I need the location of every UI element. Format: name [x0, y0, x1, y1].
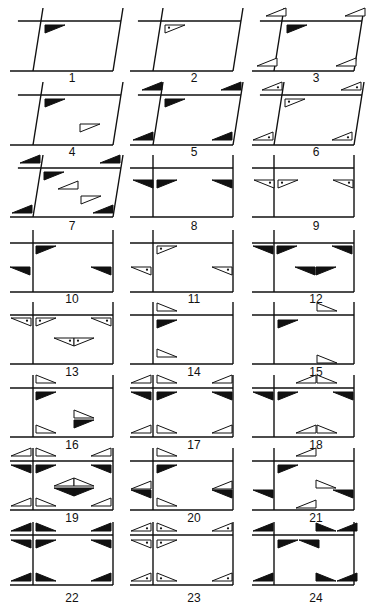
outline-triangle-icon — [131, 481, 151, 489]
filled-triangle-icon — [337, 573, 357, 581]
filled-triangle-icon — [10, 267, 30, 275]
dot-icon — [288, 101, 290, 103]
filled-triangle-icon — [45, 25, 65, 33]
panel-11: 11 — [130, 230, 233, 306]
left-vertical-line — [33, 82, 43, 145]
dotted-triangle-icon — [285, 99, 305, 107]
dotted-triangle-icon — [212, 523, 232, 531]
right-vertical-line — [354, 82, 364, 145]
filled-triangle-icon — [11, 573, 31, 581]
dot-icon — [347, 136, 349, 138]
filled-triangle-icon — [333, 392, 353, 400]
panel-label: 17 — [187, 438, 201, 452]
outline-triangle-icon — [80, 124, 100, 132]
left-vertical-line — [33, 8, 43, 71]
panel-label: 20 — [187, 511, 201, 525]
filled-triangle-icon — [44, 172, 64, 180]
filled-triangle-icon — [36, 540, 56, 548]
filled-triangle-icon — [277, 246, 297, 254]
filled-triangle-icon — [91, 540, 111, 548]
dot-icon — [146, 269, 148, 271]
filled-triangle-icon — [74, 420, 94, 428]
panel-3: 3 — [252, 8, 365, 85]
filled-triangle-icon — [278, 540, 298, 548]
panel-label: 5 — [191, 145, 198, 159]
dot-icon — [227, 269, 229, 271]
outline-triangle-icon — [296, 375, 316, 383]
outline-triangle-icon — [11, 498, 31, 506]
filled-triangle-icon — [36, 246, 56, 254]
filled-triangle-icon — [20, 155, 40, 163]
dotted-triangle-icon — [131, 267, 151, 275]
outline-triangle-icon — [157, 498, 177, 506]
dotted-triangle-icon — [157, 573, 177, 581]
outline-triangle-icon — [36, 425, 56, 433]
filled-triangle-icon — [212, 132, 232, 140]
filled-triangle-icon — [299, 540, 319, 548]
filled-triangle-icon — [316, 573, 336, 581]
outline-triangle-icon — [157, 303, 177, 311]
outline-triangle-icon — [36, 498, 56, 506]
filled-triangle-icon — [36, 573, 56, 581]
outline-triangle-icon — [317, 375, 337, 383]
filled-triangle-icon — [253, 246, 273, 254]
panel-21: 21 — [252, 448, 354, 525]
dotted-triangle-icon — [262, 82, 282, 90]
panel-14: 14 — [130, 302, 233, 379]
filled-triangle-icon — [165, 99, 185, 107]
filled-triangle-icon — [36, 523, 56, 531]
panel-label: 14 — [187, 365, 201, 379]
panel-12: 12 — [252, 230, 354, 306]
dotted-triangle-icon — [212, 267, 232, 275]
dotted-triangle-icon — [165, 25, 185, 33]
filled-triangle-icon — [316, 267, 336, 275]
filled-triangle-icon — [142, 82, 162, 90]
filled-triangle-icon — [278, 392, 298, 400]
outline-triangle-icon — [296, 425, 316, 433]
outline-triangle-icon — [36, 375, 56, 383]
dotted-triangle-icon — [131, 540, 151, 548]
filled-triangle-icon — [100, 155, 120, 163]
dotted-triangle-icon — [341, 82, 361, 90]
dotted-triangle-icon — [332, 132, 352, 140]
dotted-triangle-icon — [212, 573, 232, 581]
panel-24: 24 — [252, 522, 357, 605]
dotted-triangle-icon — [157, 523, 177, 531]
dotted-triangle-icon — [157, 540, 177, 548]
filled-triangle-icon — [12, 205, 32, 213]
outline-triangle-icon — [317, 425, 337, 433]
dotted-triangle-icon — [333, 180, 353, 188]
filled-triangle-icon — [157, 392, 177, 400]
left-vertical-line — [33, 155, 43, 217]
panel-17: 17 — [130, 375, 233, 452]
outline-triangle-icon — [81, 196, 101, 204]
outline-triangle-icon — [257, 58, 277, 66]
panel-label: 16 — [65, 438, 79, 452]
dot-icon — [77, 340, 79, 342]
dotted-triangle-icon — [11, 318, 31, 326]
outline-triangle-icon — [296, 448, 316, 456]
panel-label: 6 — [313, 145, 320, 159]
outline-triangle-icon — [11, 448, 31, 456]
right-vertical-line — [113, 155, 123, 217]
dotted-triangle-icon — [253, 132, 273, 140]
outline-triangle-icon — [54, 478, 74, 486]
filled-triangle-icon — [212, 392, 232, 400]
filled-triangle-icon — [221, 82, 241, 90]
panel-10: 10 — [10, 230, 113, 306]
filled-triangle-icon — [91, 465, 111, 473]
panel-label: 7 — [69, 219, 76, 233]
filled-triangle-icon — [253, 573, 273, 581]
panel-9: 9 — [252, 155, 354, 233]
filled-triangle-icon — [212, 180, 232, 188]
dot-icon — [227, 527, 229, 529]
right-vertical-line — [233, 82, 243, 145]
panel-5: 5 — [130, 82, 243, 159]
outline-triangle-icon — [296, 500, 316, 508]
panel-label: 9 — [313, 219, 320, 233]
right-vertical-line — [113, 82, 123, 145]
dot-icon — [356, 86, 358, 88]
filled-triangle-icon — [287, 25, 307, 33]
outline-triangle-icon — [212, 375, 232, 383]
panel-label: 13 — [65, 365, 79, 379]
